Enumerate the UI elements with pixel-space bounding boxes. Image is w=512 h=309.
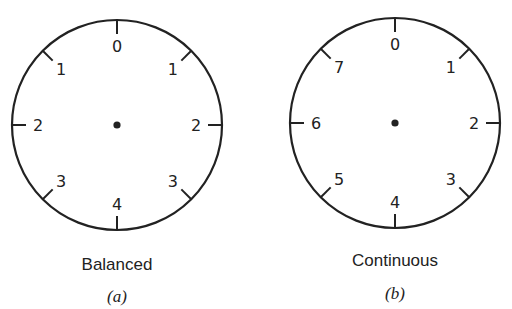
tick-mark xyxy=(43,189,53,199)
tick-mark xyxy=(43,51,53,61)
caption-continuous: Continuous xyxy=(352,251,438,270)
tick-label: 1 xyxy=(168,60,178,79)
sublabel-a: (a) xyxy=(107,287,127,306)
tick-label: 2 xyxy=(469,114,479,133)
tick-label: 0 xyxy=(390,35,400,54)
center-dot xyxy=(391,119,398,126)
tick-label: 3 xyxy=(168,172,178,191)
tick-label: 7 xyxy=(334,58,344,77)
tick-mark xyxy=(181,51,191,61)
tick-mark xyxy=(459,187,469,197)
tick-mark xyxy=(459,49,469,59)
tick-mark xyxy=(321,187,331,197)
tick-mark xyxy=(181,189,191,199)
tick-label: 3 xyxy=(446,170,456,189)
tick-label: 5 xyxy=(334,170,344,189)
tick-label: 4 xyxy=(390,193,400,212)
tick-label: 6 xyxy=(311,114,321,133)
tick-mark xyxy=(321,49,331,59)
sublabel-b: (b) xyxy=(385,284,405,303)
tick-label: 2 xyxy=(33,116,43,135)
dial-diagram: 01234321 01234567 Balanced (a) Continuou… xyxy=(0,0,512,309)
tick-label: 2 xyxy=(191,116,201,135)
tick-label: 0 xyxy=(112,37,122,56)
tick-label: 3 xyxy=(56,172,66,191)
tick-label: 1 xyxy=(56,60,66,79)
balanced-dial: 01234321 xyxy=(12,20,222,230)
tick-label: 4 xyxy=(112,195,122,214)
caption-balanced: Balanced xyxy=(82,255,153,274)
continuous-dial: 01234567 xyxy=(290,18,500,228)
tick-label: 1 xyxy=(446,58,456,77)
center-dot xyxy=(113,121,120,128)
